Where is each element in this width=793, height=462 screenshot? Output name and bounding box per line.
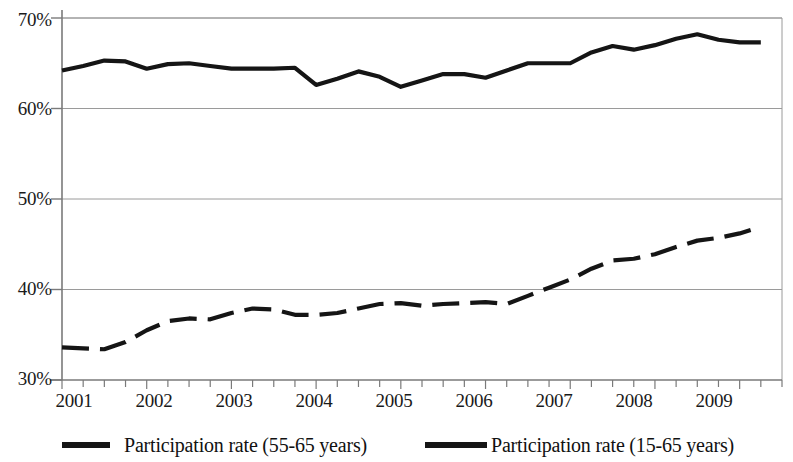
y-tick-label-60: 60% [0, 98, 52, 120]
y-tick-label-50: 50% [0, 188, 52, 210]
y-tick-label-40: 40% [0, 278, 52, 300]
legend-item-participation-55-65: Participation rate (55-65 years) [62, 428, 367, 462]
x-tick-label-2004: 2004 [284, 390, 344, 412]
x-tick-label-2007: 2007 [524, 390, 584, 412]
series-line-15-65 [62, 34, 761, 86]
x-tick-label-2006: 2006 [444, 390, 504, 412]
x-tick-label-2009: 2009 [684, 390, 744, 412]
x-tick-label-2002: 2002 [124, 390, 184, 412]
legend-label-55-65: Participation rate (55-65 years) [124, 434, 367, 457]
x-tick-label-2005: 2005 [364, 390, 424, 412]
y-tick-label-30: 30% [0, 368, 52, 390]
legend-item-participation-15-65: Participation rate (15-65 years) [425, 428, 734, 462]
chart-legend: Participation rate (55-65 years) Partici… [0, 428, 793, 462]
x-tick-label-2003: 2003 [204, 390, 264, 412]
x-tick-label-2008: 2008 [604, 390, 664, 412]
line-chart-figure: 70% 60% 50% 40% 30% 2001 2002 2003 2004 … [0, 0, 793, 462]
dashed-line-swatch-icon [62, 442, 110, 448]
y-tick-label-70: 70% [0, 9, 52, 31]
solid-line-swatch-icon [425, 442, 487, 448]
x-tick-label-2001: 2001 [44, 390, 104, 412]
series-line-55-65 [62, 227, 761, 349]
legend-label-15-65: Participation rate (15-65 years) [491, 434, 734, 457]
